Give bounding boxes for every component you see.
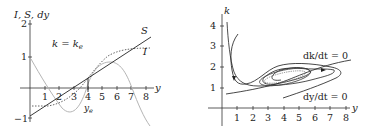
svg-text:4: 4 — [281, 112, 287, 123]
y-axis-title: I, S, dy — [13, 9, 50, 20]
svg-text:8: 8 — [343, 112, 349, 123]
ye-label: ye — [83, 103, 93, 115]
S-line — [30, 37, 151, 116]
svg-text:2: 2 — [250, 112, 256, 123]
x-tick-labels: 1 2 3 4 5 6 7 8 — [234, 112, 349, 123]
x-axis-title: y — [351, 102, 358, 113]
svg-text:6: 6 — [312, 112, 318, 123]
right-chart-svg: k 1 2 3 4 dk/dt = 0 dy/dt = 0 y 1 2 3 4 … — [186, 0, 372, 134]
svg-text:3: 3 — [71, 91, 77, 102]
svg-text:8: 8 — [143, 91, 149, 102]
svg-text:4: 4 — [210, 20, 216, 31]
svg-text:6: 6 — [114, 91, 120, 102]
svg-text:1: 1 — [234, 112, 240, 123]
dk-dt-nullcline — [226, 60, 351, 94]
y-tick-label-1: 1 — [21, 51, 27, 62]
y-tick-label-2: 2 — [21, 18, 27, 29]
svg-text:4: 4 — [85, 91, 91, 102]
S-label: S — [141, 25, 148, 36]
left-chart-svg: I, S, dy 2 1 −1 k = ke S I y 1 2 3 4 5 6… — [0, 0, 186, 134]
equation-label: k = ke — [52, 38, 83, 51]
y-tick-label-minus1: −1 — [14, 113, 28, 124]
y-axis-title: k — [224, 5, 230, 16]
svg-text:7: 7 — [128, 91, 134, 102]
dy-dt-label: dy/dt = 0 — [303, 91, 348, 102]
arrow-marker-left — [321, 68, 326, 72]
svg-text:2: 2 — [56, 91, 62, 102]
right-chart: k 1 2 3 4 dk/dt = 0 dy/dt = 0 y 1 2 3 4 … — [186, 0, 372, 134]
svg-text:3: 3 — [265, 112, 271, 123]
x-tick-labels: 1 2 3 4 5 6 7 8 — [42, 91, 149, 102]
x-axis-title: y — [154, 82, 161, 93]
y-tick-labels: 1 2 3 4 — [210, 20, 216, 93]
svg-text:5: 5 — [296, 112, 302, 123]
left-chart: I, S, dy 2 1 −1 k = ke S I y 1 2 3 4 5 6… — [0, 0, 186, 134]
limit-cycle-inner — [264, 68, 307, 86]
svg-text:5: 5 — [99, 91, 105, 102]
svg-text:1: 1 — [210, 82, 216, 93]
svg-text:2: 2 — [210, 61, 216, 72]
svg-text:3: 3 — [210, 40, 216, 51]
dy-dt-nullcline — [231, 34, 341, 98]
dk-dt-label: dk/dt = 0 — [303, 50, 348, 61]
svg-text:1: 1 — [42, 91, 48, 102]
svg-text:7: 7 — [327, 112, 333, 123]
